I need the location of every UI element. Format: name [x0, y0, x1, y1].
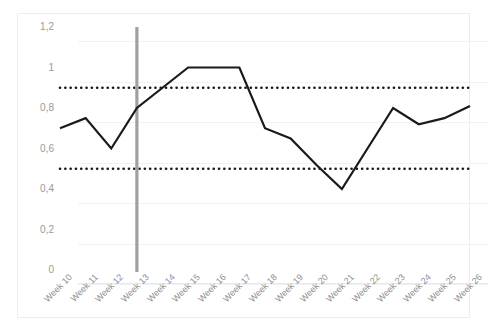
data-series [60, 68, 470, 190]
chart-canvas [0, 0, 488, 330]
series-line-value [60, 68, 470, 190]
chart-figure: 00,20,40,60,811,2 Week 10Week 11Week 12W… [0, 0, 488, 330]
